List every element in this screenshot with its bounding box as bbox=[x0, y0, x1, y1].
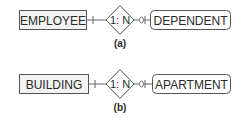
apartment-entity-label: APARTMENT bbox=[155, 78, 229, 92]
diagram-b: BUILDING 1: N APARTMENT (b) bbox=[20, 70, 231, 114]
caption-a: (a) bbox=[114, 38, 126, 49]
caption-b: (b) bbox=[114, 102, 127, 113]
dependent-entity-label: DEPENDENT bbox=[153, 14, 228, 28]
building-entity-label: BUILDING bbox=[26, 78, 83, 92]
relationship-label: 1: N bbox=[110, 78, 130, 90]
employee-entity-label: EMPLOYEE bbox=[20, 14, 86, 28]
optional-circle-icon bbox=[140, 81, 144, 87]
diagram-a: EMPLOYEE 1: N DEPENDENT (a) bbox=[20, 6, 231, 50]
relationship-label: 1: N bbox=[110, 14, 130, 26]
er-diagram-canvas: EMPLOYEE 1: N DEPENDENT (a) BUILDING 1: … bbox=[0, 0, 242, 121]
optional-circle-icon bbox=[140, 17, 144, 23]
